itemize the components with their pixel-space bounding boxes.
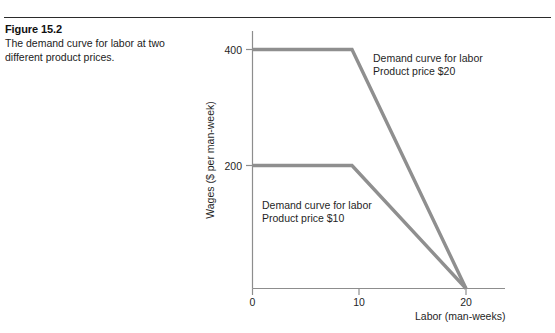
y-tick-label-200: 200 [224, 160, 242, 172]
x-axis-title: Labor (man-weeks) [415, 310, 505, 322]
annotation-price-20-line-1: Demand curve for labor [373, 52, 483, 64]
chart-area: 400 200 0 10 20 Wages ($ per man-week) L… [0, 0, 555, 333]
x-tick-label-20: 20 [460, 296, 472, 308]
demand-curve-price-10 [253, 166, 467, 289]
x-tick-label-10: 10 [353, 296, 365, 308]
y-tick-label-400: 400 [224, 44, 242, 56]
x-tick-label-0: 0 [250, 296, 256, 308]
annotation-price-10-line-2: Product price $10 [262, 212, 344, 224]
figure-page: Figure 15.2 The demand curve for labor a… [0, 0, 555, 333]
y-axis-title: Wages ($ per man-week) [204, 101, 216, 218]
annotation-price-20-line-2: Product price $20 [373, 65, 455, 77]
annotation-price-10-line-1: Demand curve for labor [262, 199, 372, 211]
